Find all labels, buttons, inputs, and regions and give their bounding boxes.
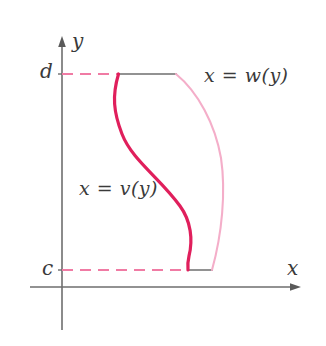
tick-label-d: d bbox=[40, 61, 53, 81]
x-axis-label: x bbox=[287, 258, 298, 278]
figure-background bbox=[0, 0, 326, 346]
v-curve-label: x = v(y) bbox=[79, 179, 158, 198]
graph-canvas bbox=[0, 0, 326, 346]
y-axis-label: y bbox=[72, 31, 83, 51]
tick-label-c: c bbox=[42, 258, 53, 278]
w-curve-label: x = w(y) bbox=[204, 66, 289, 85]
